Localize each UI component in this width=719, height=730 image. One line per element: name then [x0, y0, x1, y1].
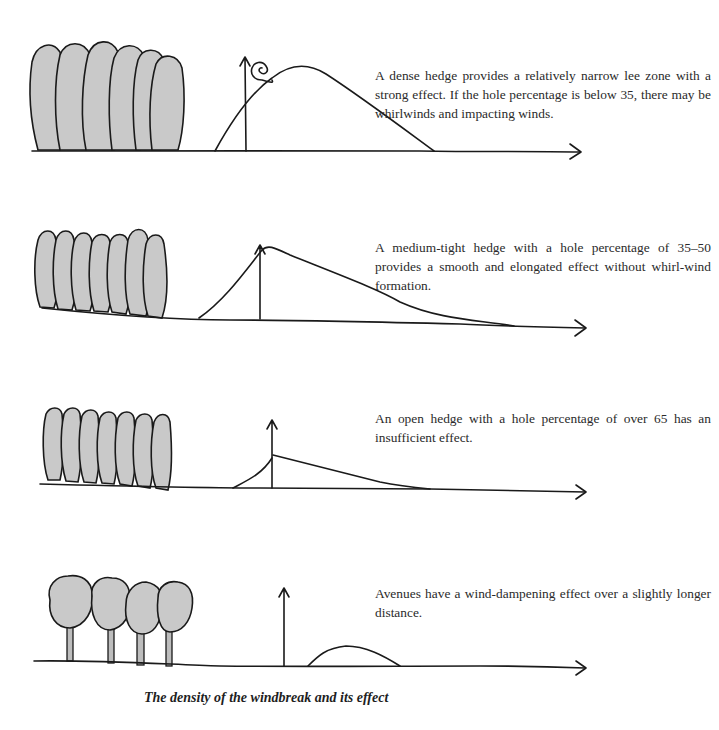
panel-medium-hedge: A medium-tight hedge with a hole percent…	[0, 210, 719, 360]
wind-profile-curve	[308, 646, 400, 666]
avenue-caption: Avenues have a wind-dampening effect ove…	[375, 584, 711, 622]
ground-line	[40, 484, 585, 492]
wind-height-arrow	[267, 420, 277, 488]
medium-hedge-trees	[35, 230, 167, 319]
avenue-trees	[49, 576, 192, 666]
figure-title: The density of the windbreak and its eff…	[144, 690, 388, 706]
panel-avenue: Avenues have a wind-dampening effect ove…	[0, 560, 719, 680]
medium-hedge-caption: A medium-tight hedge with a hole percent…	[375, 238, 711, 295]
panel-open-hedge: An open hedge with a hole percentage of …	[0, 400, 719, 510]
panel-dense-hedge: A dense hedge provides a relatively narr…	[0, 0, 719, 170]
open-hedge-caption: An open hedge with a hole percentage of …	[375, 409, 711, 447]
wind-height-arrow	[279, 588, 289, 666]
ground-line	[32, 151, 580, 152]
dense-hedge-trees	[30, 42, 184, 150]
wind-profile-curve	[233, 455, 430, 489]
open-hedge-trees	[43, 408, 171, 490]
dense-hedge-caption: A dense hedge provides a relatively narr…	[375, 66, 711, 123]
